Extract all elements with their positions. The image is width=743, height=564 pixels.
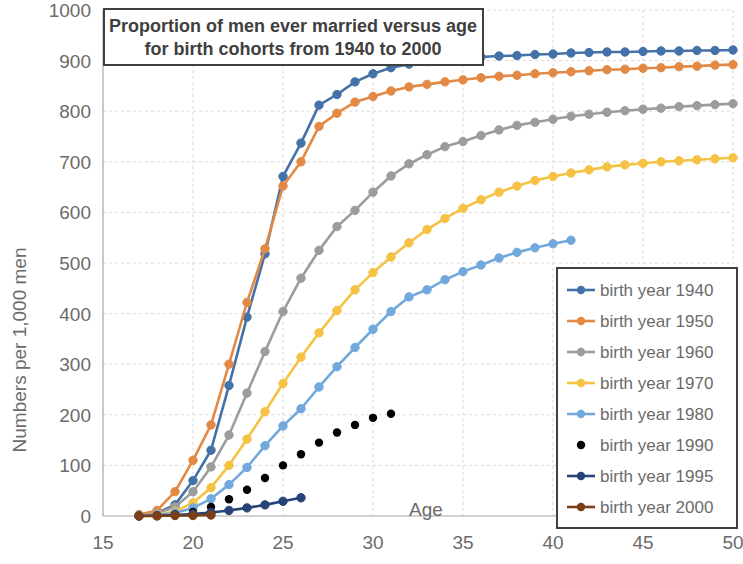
data-point (423, 151, 431, 159)
data-point (621, 48, 629, 56)
data-point (369, 325, 377, 333)
legend-swatch-marker (577, 503, 585, 511)
chart-container: 01002003004005006007008009001000 1520253… (0, 0, 743, 564)
data-point (567, 49, 575, 57)
data-point (243, 463, 251, 471)
data-point (333, 428, 341, 436)
data-point (225, 431, 233, 439)
data-point (585, 48, 593, 56)
data-point (369, 92, 377, 100)
y-tick-label: 800 (59, 101, 91, 122)
data-point (729, 99, 737, 107)
data-point (639, 159, 647, 167)
data-point (567, 236, 575, 244)
data-point (711, 100, 719, 108)
data-point (261, 408, 269, 416)
data-point (279, 379, 287, 387)
data-point (189, 476, 197, 484)
data-point (531, 70, 539, 78)
data-point (675, 62, 683, 70)
y-tick-label: 500 (59, 253, 91, 274)
data-point (351, 286, 359, 294)
data-point (315, 383, 323, 391)
data-point (477, 131, 485, 139)
data-point (441, 275, 449, 283)
data-point (513, 121, 521, 129)
data-point (495, 52, 503, 60)
data-point (459, 137, 467, 145)
data-point (495, 126, 503, 134)
data-point (369, 188, 377, 196)
data-point (423, 80, 431, 88)
data-point (603, 163, 611, 171)
x-tick-label: 25 (272, 532, 293, 553)
data-point (585, 67, 593, 75)
chart-title-line-2: for birth cohorts from 1940 to 2000 (144, 39, 441, 59)
data-point (549, 115, 557, 123)
data-point (693, 101, 701, 109)
data-point (405, 160, 413, 168)
y-tick-label: 200 (59, 405, 91, 426)
data-point (549, 172, 557, 180)
data-point (315, 246, 323, 254)
chart-title-box: Proportion of men ever married versus ag… (104, 9, 483, 65)
legend-box-frame (557, 268, 737, 528)
data-point (333, 363, 341, 371)
data-point (225, 461, 233, 469)
y-tick-label: 900 (59, 51, 91, 72)
y-tick-label: 700 (59, 152, 91, 173)
data-point (513, 182, 521, 190)
data-point (459, 204, 467, 212)
data-point (711, 46, 719, 54)
data-point (207, 483, 215, 491)
x-tick-label: 40 (542, 532, 563, 553)
data-point (495, 254, 503, 262)
x-axis-tick-labels: 1520253035404550 (92, 532, 743, 553)
data-point (225, 360, 233, 368)
data-point (639, 47, 647, 55)
data-point (279, 182, 287, 190)
legend-swatch-marker (577, 441, 585, 449)
data-point (621, 106, 629, 114)
data-point (387, 253, 395, 261)
data-point (531, 176, 539, 184)
data-point (297, 494, 305, 502)
data-point (189, 511, 197, 519)
data-point (189, 488, 197, 496)
data-point (549, 50, 557, 58)
data-point (459, 267, 467, 275)
data-point (207, 463, 215, 471)
data-point (405, 293, 413, 301)
data-point (531, 244, 539, 252)
data-point (369, 70, 377, 78)
data-point (531, 50, 539, 58)
legend-label: birth year 1970 (600, 374, 713, 393)
data-point (297, 353, 305, 361)
data-point (225, 506, 233, 514)
legend-label: birth year 1990 (600, 436, 713, 455)
legend-swatch-marker (577, 472, 585, 480)
data-point (225, 480, 233, 488)
legend-label: birth year 1995 (600, 467, 713, 486)
data-point (711, 61, 719, 69)
data-point (315, 122, 323, 130)
x-tick-label: 50 (722, 532, 743, 553)
x-tick-label: 20 (182, 532, 203, 553)
data-point (387, 410, 395, 418)
data-point (513, 51, 521, 59)
data-point (441, 78, 449, 86)
data-point (279, 307, 287, 315)
data-point (657, 158, 665, 166)
legend-label: birth year 1950 (600, 312, 713, 331)
data-point (729, 46, 737, 54)
data-point (243, 485, 251, 493)
y-tick-label: 1000 (49, 0, 91, 21)
data-point (423, 225, 431, 233)
data-point (207, 495, 215, 503)
legend-label: birth year 1960 (600, 343, 713, 362)
data-point (279, 172, 287, 180)
data-point (495, 72, 503, 80)
x-tick-label: 15 (92, 532, 113, 553)
data-point (297, 274, 305, 282)
data-point (531, 118, 539, 126)
